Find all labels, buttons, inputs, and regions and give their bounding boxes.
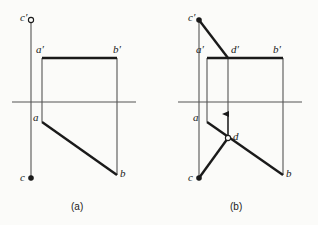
panel-a-geometry <box>12 17 136 180</box>
panel-b-label-b: b <box>286 168 292 179</box>
segment-a-b <box>42 122 117 175</box>
panel-b-label-a: a <box>193 112 199 123</box>
panel-a-label-c-prime: c′ <box>20 12 27 23</box>
panel-b-label-a-prime: a′ <box>196 44 204 55</box>
panel-a-label-a: a <box>33 112 39 123</box>
panel-b-label-d-prime: d′ <box>231 44 239 55</box>
point-marker-c-prime <box>197 18 201 22</box>
figure-caption-b: (b) <box>230 202 242 212</box>
panel-b-label-b-prime: b′ <box>273 44 281 55</box>
point-marker-c <box>29 176 33 180</box>
point-marker-c <box>197 176 201 180</box>
point-marker-d <box>225 135 230 140</box>
panel-b-label-c-prime: c′ <box>188 12 195 23</box>
panel-a-label-b-prime: b′ <box>113 44 121 55</box>
technical-drawing <box>0 0 318 225</box>
panel-a-label-a-prime: a′ <box>36 44 44 55</box>
figure-caption-a: (a) <box>71 202 83 212</box>
panel-b-label-c: c <box>188 172 193 183</box>
panel-b-label-d: d <box>233 131 239 142</box>
panel-a-label-b: b <box>120 168 126 179</box>
segment-a-b <box>207 122 283 175</box>
segment-c-d <box>199 138 228 178</box>
panel-a-label-c: c <box>20 172 25 183</box>
figure-canvas: c′a′b′abcc′a′d′b′adbc(a)(b) <box>0 0 318 225</box>
point-marker-c-prime <box>28 17 33 22</box>
